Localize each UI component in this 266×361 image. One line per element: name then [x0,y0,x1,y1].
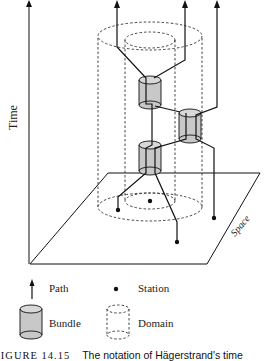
legend-path-label: Path [49,282,69,294]
legend-bundle-label: Bundle [49,317,81,329]
caption-text: The notation of Hägerstrand's time [82,349,243,361]
space-plane [30,173,260,264]
legend-bundle-icon [20,305,42,339]
path-arrowheads [114,0,220,8]
time-axis [26,0,32,264]
inner-domain-cylinder [125,32,175,209]
legend-path-icon [30,279,35,299]
time-axis-label: Time [6,105,21,130]
stations [116,199,216,244]
figure-caption: FIGURE 14.15The notation of Hägerstrand'… [0,349,243,361]
legend-domain-label: Domain [138,317,173,329]
legend-station-label: Station [138,282,169,294]
legend-station-icon [114,287,118,291]
legend-domain-icon [107,305,129,339]
figure-number: FIGURE 14.15 [0,350,70,361]
